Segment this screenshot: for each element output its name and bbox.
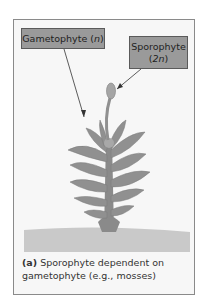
gametophyte-pointer	[64, 49, 84, 117]
gametophyte-label-text: Gametophyte	[22, 33, 87, 44]
sporophyte-capsule	[107, 83, 116, 99]
sporophyte-seta	[106, 98, 110, 140]
sporophyte-label: Sporophyte (2n)	[129, 36, 188, 69]
sporophyte-ploidy: 2n	[152, 53, 164, 64]
gametophyte-label: Gametophyte (n)	[21, 28, 105, 49]
figure-caption: (a) Sporophyte dependent on gametophyte …	[22, 256, 192, 282]
caption-tag: (a)	[22, 257, 37, 268]
sporophyte-label-text: Sporophyte	[131, 41, 186, 53]
caption-text: Sporophyte dependent on gametophyte (e.g…	[22, 257, 164, 281]
gametophyte-ploidy: n	[94, 33, 100, 44]
